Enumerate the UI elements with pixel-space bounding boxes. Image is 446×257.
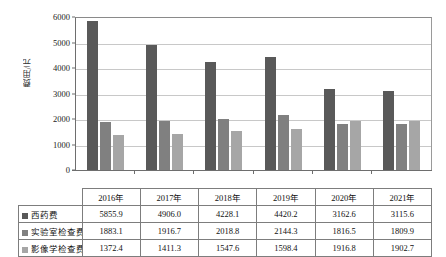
y-tick-label: 4000 xyxy=(53,63,70,73)
bar-group xyxy=(135,18,194,170)
table-cell: 4420.2 xyxy=(257,206,315,223)
legend-label: 实验室检查费 xyxy=(31,227,82,237)
table-cell: 3162.6 xyxy=(315,206,373,223)
y-tick-label: 0 xyxy=(66,165,70,175)
table-cell: 4906.0 xyxy=(140,206,198,223)
bar-series-3 xyxy=(409,121,420,170)
bar-group xyxy=(254,18,313,170)
bar-group xyxy=(372,18,431,170)
table-body: 西药费5855.94906.04228.14420.23162.63115.6实… xyxy=(19,206,432,257)
table-column-header: 2017年 xyxy=(140,189,198,206)
table-corner-cell xyxy=(19,189,83,206)
y-axis-zero-tick xyxy=(72,170,75,171)
legend-label: 影像学检查费 xyxy=(31,244,82,254)
data-table: 2016年2017年2018年2019年2020年2021年 西药费5855.9… xyxy=(18,188,432,257)
bar-series-2 xyxy=(337,124,348,170)
table-header: 2016年2017年2018年2019年2020年2021年 xyxy=(19,189,432,206)
bar-series-2 xyxy=(278,115,289,170)
bar-series-3 xyxy=(172,134,183,170)
bar-series-3 xyxy=(291,129,302,170)
table-cell: 2018.8 xyxy=(199,223,257,240)
bar-series-2 xyxy=(159,121,170,170)
table-row: 实验室检查费1883.11916.72018.82144.31816.51809… xyxy=(19,223,432,240)
table-row-header: 西药费 xyxy=(19,206,83,223)
table-cell: 1916.8 xyxy=(315,240,373,257)
bar-series-1 xyxy=(205,62,216,170)
table-cell: 1411.3 xyxy=(140,240,198,257)
y-axis-title: 费用/元 xyxy=(24,58,38,87)
chart-plot-region: 费用/元 0100020003000400050006000 xyxy=(0,0,446,188)
legend-swatch-icon xyxy=(22,213,28,219)
x-axis-line xyxy=(75,170,432,171)
table-cell: 1902.7 xyxy=(373,240,431,257)
bar-group xyxy=(313,18,372,170)
bar-group xyxy=(194,18,253,170)
y-tick-label: 5000 xyxy=(53,38,70,48)
bar-series-2 xyxy=(100,122,111,170)
bar-series-1 xyxy=(383,91,394,170)
table-cell: 1547.6 xyxy=(199,240,257,257)
y-axis-tick-labels: 0100020003000400050006000 xyxy=(40,17,72,170)
bar-group xyxy=(76,18,135,170)
table-cell: 1816.5 xyxy=(315,223,373,240)
table-cell: 1883.1 xyxy=(82,223,140,240)
table-column-header: 2016年 xyxy=(82,189,140,206)
table-row: 西药费5855.94906.04228.14420.23162.63115.6 xyxy=(19,206,432,223)
y-tick-label: 3000 xyxy=(53,89,70,99)
table-header-row: 2016年2017年2018年2019年2020年2021年 xyxy=(19,189,432,206)
table-cell: 2144.3 xyxy=(257,223,315,240)
table-row: 影像学检查费1372.41411.31547.61598.41916.81902… xyxy=(19,240,432,257)
y-tick-label: 2000 xyxy=(53,114,70,124)
bar-series-3 xyxy=(350,121,361,170)
bar-series-3 xyxy=(231,131,242,170)
table-column-header: 2019年 xyxy=(257,189,315,206)
table-column-header: 2020年 xyxy=(315,189,373,206)
bar-series-1 xyxy=(87,21,98,170)
table-cell: 1809.9 xyxy=(373,223,431,240)
y-tick-label: 6000 xyxy=(53,12,70,22)
bar-groups xyxy=(76,18,431,170)
bar-series-2 xyxy=(218,119,229,170)
y-tick-label: 1000 xyxy=(53,140,70,150)
bar-series-2 xyxy=(396,124,407,170)
table-cell: 1916.7 xyxy=(140,223,198,240)
table-column-header: 2021年 xyxy=(373,189,431,206)
table-row-header: 实验室检查费 xyxy=(19,223,83,240)
legend-swatch-icon xyxy=(22,230,28,236)
table-cell: 3115.6 xyxy=(373,206,431,223)
bar-series-3 xyxy=(113,135,124,170)
table-column-header: 2018年 xyxy=(199,189,257,206)
plot-area xyxy=(75,17,432,170)
bar-series-1 xyxy=(324,89,335,170)
bar-series-1 xyxy=(265,57,276,170)
legend-label: 西药费 xyxy=(31,210,58,220)
bar-series-1 xyxy=(146,45,157,170)
table-cell: 1598.4 xyxy=(257,240,315,257)
table-cell: 4228.1 xyxy=(199,206,257,223)
table-cell: 5855.9 xyxy=(82,206,140,223)
legend-swatch-icon xyxy=(22,247,28,253)
table-row-header: 影像学检查费 xyxy=(19,240,83,257)
table-cell: 1372.4 xyxy=(82,240,140,257)
